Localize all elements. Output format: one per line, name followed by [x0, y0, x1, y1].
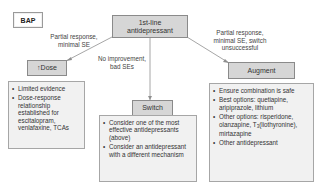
edge-label-switch: No improvement, bad SEs	[97, 55, 147, 70]
switch-details-box: Consider one of the most effective antid…	[99, 115, 197, 182]
node-augment: Augment	[228, 62, 295, 79]
augment-bullet-3: Other options: risperidone, olanzapine, …	[213, 113, 310, 137]
root-node-first-line-antidepressant: 1st-line antidepressant	[112, 15, 188, 38]
augment-bullet-4: Other antidepressant	[213, 139, 310, 146]
edge-label-augment: Partial response, minimal SE, switch uns…	[207, 29, 273, 52]
node-increase-dose: ↑Dose	[27, 60, 67, 76]
augment-details-box: Ensure combination is safe Best options:…	[209, 83, 314, 182]
node-dose-label: ↑Dose	[37, 64, 57, 72]
node-switch-label: Switch	[142, 104, 163, 112]
dose-bullet-2: Dose-response relationship established f…	[12, 94, 81, 131]
node-augment-label: Augment	[247, 67, 275, 75]
switch-bullet-2: Consider an antidepressant with a differ…	[103, 143, 193, 158]
node-switch: Switch	[132, 100, 173, 116]
edge-label-dose: Partial response, minimal SE	[44, 33, 104, 48]
augment-bullet-1: Ensure combination is safe	[213, 87, 310, 94]
dose-bullet-1: Limited evidence	[12, 85, 81, 92]
bap-tag: BAP	[13, 12, 43, 28]
augment-bullet-2: Best options: quetiapine, aripiprazole, …	[213, 96, 310, 111]
root-node-label: 1st-line antidepressant	[127, 19, 173, 35]
dose-details-box: Limited evidence Dose-response relations…	[8, 81, 85, 149]
switch-bullet-1: Consider one of the most effective antid…	[103, 119, 193, 141]
